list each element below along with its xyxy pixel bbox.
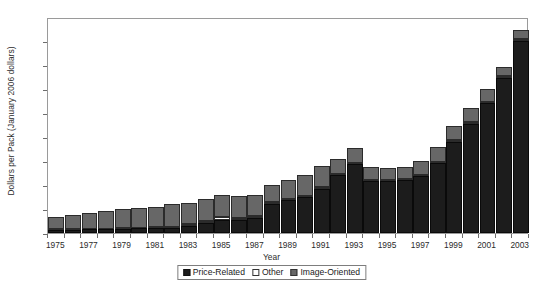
bar-segment-other [231, 218, 247, 220]
bar-segment-image-oriented [82, 213, 98, 229]
x-tick-mark [362, 234, 363, 238]
legend-label: Image-Oriented [300, 267, 360, 277]
bar-1981[interactable] [148, 207, 164, 233]
bar-segment-image-oriented [463, 108, 479, 122]
bar-1991[interactable] [314, 166, 330, 233]
bar-1998[interactable] [430, 147, 446, 233]
bar-segment-image-oriented [330, 159, 346, 175]
bar-segment-price-related [264, 204, 280, 233]
bar-1985[interactable] [214, 195, 230, 233]
bar-segment-image-oriented [198, 199, 214, 221]
bar-segment-image-oriented [115, 209, 131, 228]
x-tick-mark [379, 234, 380, 238]
bar-segment-price-related [131, 228, 147, 233]
x-tick-label: 2003 [500, 240, 540, 250]
x-tick-mark [113, 234, 114, 238]
bar-segment-image-oriented [513, 30, 529, 38]
x-tick-mark [97, 234, 98, 238]
legend-label: Price-Related [193, 267, 245, 277]
bar-2001[interactable] [480, 89, 496, 233]
x-tick-mark [462, 234, 463, 238]
bar-segment-image-oriented [48, 217, 64, 229]
bar-1982[interactable] [164, 204, 180, 233]
bar-segment-price-related [380, 181, 396, 233]
bar-1997[interactable] [413, 161, 429, 233]
bar-segment-price-related [115, 229, 131, 233]
bar-segment-other [513, 39, 529, 41]
bar-segment-image-oriented [480, 89, 496, 102]
bar-1976[interactable] [65, 215, 81, 233]
legend-item-other[interactable]: Other [252, 267, 284, 277]
bar-segment-price-related [496, 78, 512, 233]
bar-2000[interactable] [463, 108, 479, 233]
x-tick-mark [511, 234, 512, 238]
bar-1977[interactable] [82, 213, 98, 233]
bar-segment-price-related [330, 175, 346, 233]
bar-1996[interactable] [397, 167, 413, 233]
bar-segment-image-oriented [148, 207, 164, 228]
legend-item-image-oriented[interactable]: Image-Oriented [290, 267, 360, 277]
bar-segment-image-oriented [314, 166, 330, 188]
bar-segment-price-related [463, 124, 479, 233]
bar-segment-image-oriented [214, 195, 230, 218]
x-tick-mark [196, 234, 197, 238]
bar-1980[interactable] [131, 208, 147, 233]
bar-segment-other [198, 221, 214, 223]
bar-1975[interactable] [48, 217, 64, 233]
bar-1986[interactable] [231, 196, 247, 233]
bar-1999[interactable] [446, 126, 462, 233]
y-axis-title: Dollars per Pack (January 2006 dollars) [6, 14, 16, 228]
bar-2002[interactable] [496, 67, 512, 233]
bar-segment-image-oriented [131, 208, 147, 228]
bar-1989[interactable] [281, 180, 297, 233]
plot-area [47, 18, 528, 234]
bar-segment-price-related [281, 200, 297, 233]
bar-2003[interactable] [513, 30, 529, 233]
bar-segment-price-related [198, 223, 214, 233]
bar-1984[interactable] [198, 199, 214, 233]
x-tick-mark [130, 234, 131, 238]
bar-segment-price-related [214, 220, 230, 233]
bar-segment-image-oriented [98, 211, 114, 228]
legend-swatch-icon [252, 269, 259, 276]
x-axis-title: Year [0, 252, 543, 262]
bar-segment-image-oriented [231, 196, 247, 218]
bar-segment-price-related [231, 220, 247, 233]
bar-segment-image-oriented [413, 161, 429, 175]
bar-segment-price-related [397, 180, 413, 233]
bar-segment-price-related [347, 164, 363, 233]
bar-1988[interactable] [264, 185, 280, 233]
bar-segment-image-oriented [297, 175, 313, 195]
bar-segment-price-related [513, 41, 529, 233]
bar-1978[interactable] [98, 211, 114, 233]
bar-1990[interactable] [297, 175, 313, 233]
x-tick-mark [180, 234, 181, 238]
bar-segment-image-oriented [430, 147, 446, 163]
x-tick-mark [395, 234, 396, 238]
bar-segment-image-oriented [164, 204, 180, 227]
x-tick-mark [329, 234, 330, 238]
x-tick-mark [478, 234, 479, 238]
legend-item-price-related[interactable]: Price-Related [183, 267, 245, 277]
bar-segment-other [247, 216, 263, 218]
bar-1994[interactable] [363, 167, 379, 233]
bar-segment-price-related [480, 103, 496, 233]
x-tick-mark [64, 234, 65, 238]
bar-segment-image-oriented [65, 215, 81, 229]
x-tick-mark [296, 234, 297, 238]
bar-segment-image-oriented [380, 168, 396, 180]
bar-1992[interactable] [330, 159, 346, 233]
x-tick-mark [279, 234, 280, 238]
bar-1983[interactable] [181, 203, 197, 233]
bar-1995[interactable] [380, 168, 396, 233]
x-tick-mark [147, 234, 148, 238]
x-tick-mark [213, 234, 214, 238]
bar-segment-price-related [98, 229, 114, 233]
x-tick-mark [445, 234, 446, 238]
bar-1987[interactable] [247, 195, 263, 233]
chart-container: Dollars per Pack (January 2006 dollars) … [0, 0, 543, 289]
legend-swatch-icon [290, 269, 297, 276]
bar-1993[interactable] [347, 148, 363, 233]
bar-segment-image-oriented [397, 167, 413, 179]
bar-1979[interactable] [115, 209, 131, 233]
